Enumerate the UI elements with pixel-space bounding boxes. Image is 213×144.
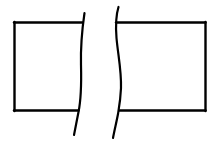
break-diagram (0, 0, 213, 144)
